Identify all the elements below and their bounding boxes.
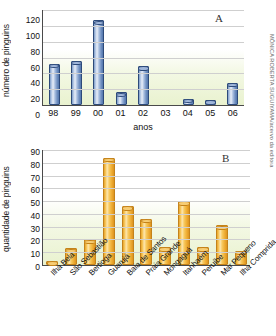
- y-axis-label-a: número de pinguins: [1, 8, 13, 113]
- y-axis-ticks-b: 0102030405060708090: [14, 150, 40, 266]
- y-tick-label: 70: [31, 173, 40, 182]
- gridline: [43, 239, 250, 240]
- x-tick-label: 02: [132, 108, 154, 118]
- x-tick-label: 05: [199, 108, 221, 118]
- gridline: [43, 89, 244, 90]
- y-tick-label: 20: [31, 237, 40, 246]
- gridline: [43, 150, 250, 151]
- x-axis-ticks-a: 989900010203040506: [42, 108, 244, 118]
- bar-cell: [62, 150, 81, 265]
- gridline: [43, 10, 244, 11]
- y-tick-label: 20: [31, 95, 40, 104]
- gridline: [43, 201, 250, 202]
- x-tick-label: 99: [64, 108, 86, 118]
- bar: [93, 20, 104, 105]
- x-tick-label: 01: [109, 108, 131, 118]
- bar-cell: [118, 150, 137, 265]
- bar-cell: [43, 150, 62, 265]
- y-tick-label: 10: [31, 250, 40, 259]
- y-tick-label: 40: [31, 212, 40, 221]
- gridline: [43, 26, 244, 27]
- chart-panel-a: número de pinguins 020406080100120 98990…: [0, 0, 256, 138]
- gridline: [43, 42, 244, 43]
- bar: [138, 66, 149, 105]
- y-tick-label: 80: [31, 47, 40, 56]
- y-tick-label: 40: [31, 79, 40, 88]
- gridline: [43, 176, 250, 177]
- y-tick-label: 0: [35, 263, 40, 272]
- plot-area-a: [42, 10, 244, 106]
- y-tick-label: 120: [26, 16, 40, 25]
- bar: [103, 158, 115, 265]
- x-tick-label: 00: [87, 108, 109, 118]
- gridline: [43, 227, 250, 228]
- y-tick-label: 100: [26, 32, 40, 41]
- y-axis-label-b: quantidade de pinguins: [1, 148, 13, 270]
- bar: [116, 92, 127, 105]
- gridline: [43, 163, 250, 164]
- bar-cell: [212, 150, 231, 265]
- y-tick-label: 0: [35, 111, 40, 120]
- bar: [49, 64, 60, 105]
- x-axis-title-a: anos: [42, 122, 244, 132]
- gridline: [43, 214, 250, 215]
- chart-panel-b: quantidade de pinguins 01020304050607080…: [0, 148, 256, 336]
- x-tick-label: 04: [177, 108, 199, 118]
- bar: [183, 99, 194, 105]
- x-tick-label: 98: [42, 108, 64, 118]
- bar: [71, 61, 82, 105]
- x-tick-label: 03: [154, 108, 176, 118]
- x-axis-category-labels-b: Ilha BelaSão SebastiãoBertiogaGuarujáBaí…: [42, 269, 250, 335]
- panel-letter-b: B: [222, 152, 229, 164]
- panel-letter-a: A: [215, 12, 223, 24]
- y-tick-label: 80: [31, 161, 40, 170]
- y-tick-label: 90: [31, 148, 40, 157]
- y-tick-label: 50: [31, 199, 40, 208]
- gridline: [43, 188, 250, 189]
- y-tick-label: 60: [31, 186, 40, 195]
- gridline: [43, 58, 244, 59]
- bar: [205, 100, 216, 105]
- y-tick-label: 60: [31, 63, 40, 72]
- image-credit: MÔNICA ROBERTA SUGUIYAMA/acervo da edito…: [269, 34, 275, 168]
- y-axis-ticks-a: 020406080100120: [14, 10, 40, 106]
- bar: [227, 83, 238, 105]
- y-tick-label: 30: [31, 224, 40, 233]
- gridline: [43, 73, 244, 74]
- figure-root: número de pinguins 020406080100120 98990…: [0, 0, 276, 336]
- x-tick-label: 06: [222, 108, 244, 118]
